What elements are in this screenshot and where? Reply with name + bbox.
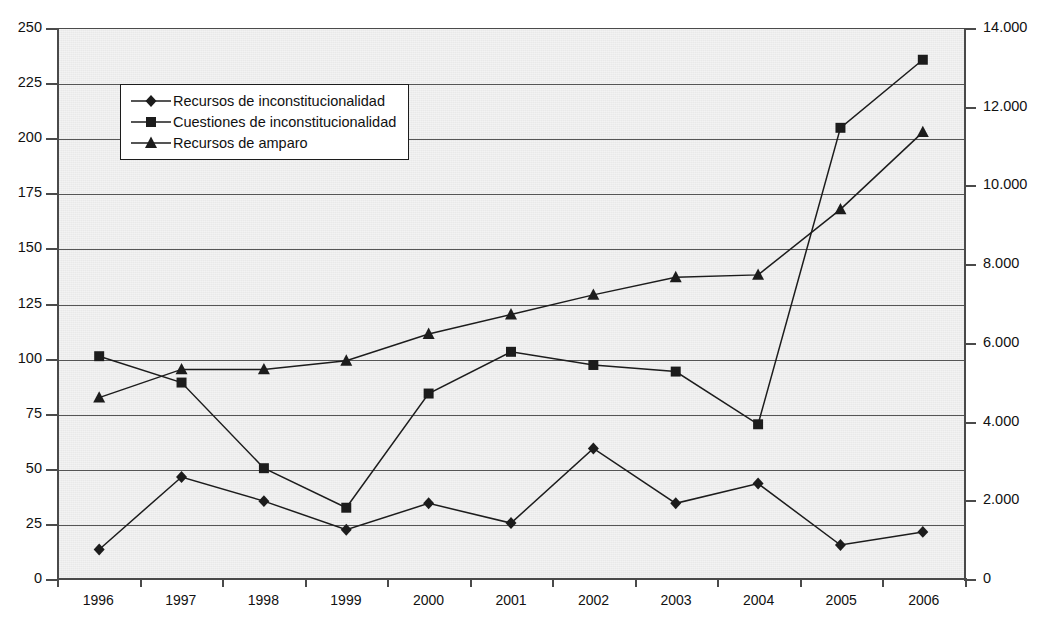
legend-label: Recursos de inconstitucionalidad <box>173 92 385 110</box>
series-line <box>99 448 923 549</box>
x-axis-tick-label: 1998 <box>248 592 279 608</box>
legend-marker-triangle <box>129 134 173 152</box>
legend-item[interactable]: Cuestiones de inconstitucionalidad <box>129 111 396 132</box>
y-axis-left-tick <box>46 304 58 306</box>
diamond-marker <box>917 526 928 538</box>
x-axis-tick <box>882 578 884 587</box>
x-axis-tick-label: 1996 <box>83 592 114 608</box>
triangle-marker <box>752 268 764 279</box>
y-axis-right-tick <box>964 343 976 345</box>
triangle-marker <box>917 126 929 137</box>
series-3 <box>93 126 929 403</box>
chart-title <box>0 0 1061 8</box>
series-line <box>99 132 923 397</box>
y-axis-right-tick-label: 0 <box>983 570 991 586</box>
x-axis-tick <box>222 578 224 587</box>
y-axis-left-tick-label: 175 <box>18 184 42 200</box>
x-axis-tick <box>305 578 307 587</box>
legend-item[interactable]: Recursos de inconstitucionalidad <box>129 90 396 111</box>
square-marker <box>588 360 598 370</box>
y-axis-left-tick-label: 100 <box>18 350 42 366</box>
y-axis-left-tick-label: 0 <box>34 570 42 586</box>
chart-page: Recursos de inconstitucionalidadCuestion… <box>0 0 1061 635</box>
x-axis-tick-label: 2000 <box>413 592 444 608</box>
x-axis-tick <box>470 578 472 587</box>
x-axis-tick <box>57 578 59 587</box>
x-axis-tick <box>552 578 554 587</box>
y-axis-right-tick-label: 2.000 <box>983 491 1019 507</box>
y-axis-left-tick-label: 50 <box>26 460 42 476</box>
square-marker <box>671 367 681 377</box>
square-marker <box>835 123 845 133</box>
x-axis-tick <box>965 578 967 587</box>
y-axis-right-tick-label: 6.000 <box>983 334 1019 350</box>
x-axis-tick-label: 2003 <box>661 592 692 608</box>
y-axis-left-tick <box>46 83 58 85</box>
series-1 <box>94 442 929 555</box>
y-axis-right-tick <box>964 185 976 187</box>
square-marker <box>918 55 928 65</box>
square-marker <box>94 351 104 361</box>
y-axis-left-tick <box>46 359 58 361</box>
square-marker <box>424 389 434 399</box>
x-axis-line <box>57 578 966 580</box>
legend-label: Recursos de amparo <box>173 134 308 152</box>
diamond-marker <box>423 497 434 509</box>
x-axis-tick <box>800 578 802 587</box>
legend-marker-diamond <box>129 92 173 110</box>
x-axis-tick-label: 2002 <box>578 592 609 608</box>
y-axis-left-tick <box>46 524 58 526</box>
diamond-marker <box>341 524 352 536</box>
y-axis-left-tick-label: 25 <box>26 515 42 531</box>
y-axis-right-tick-label: 12.000 <box>983 98 1027 114</box>
square-marker <box>506 347 516 357</box>
y-axis-left-tick-label: 125 <box>18 295 42 311</box>
square-marker <box>341 503 351 513</box>
y-axis-right-tick <box>964 422 976 424</box>
y-axis-left-tick <box>46 28 58 30</box>
y-axis-right-tick <box>964 28 976 30</box>
legend-label: Cuestiones de inconstitucionalidad <box>173 113 396 131</box>
y-axis-right-tick-label: 14.000 <box>983 19 1027 35</box>
y-axis-left-tick <box>46 138 58 140</box>
y-axis-left-tick-label: 75 <box>26 405 42 421</box>
x-axis-tick-label: 1999 <box>330 592 361 608</box>
y-axis-left-tick-label: 250 <box>18 19 42 35</box>
legend: Recursos de inconstitucionalidadCuestion… <box>120 84 409 160</box>
x-axis-tick-label: 2004 <box>743 592 774 608</box>
x-axis-tick-label: 2005 <box>826 592 857 608</box>
y-axis-left-tick-label: 150 <box>18 239 42 255</box>
diamond-marker <box>670 497 681 509</box>
y-axis-left-tick <box>46 414 58 416</box>
x-axis-tick-label: 1997 <box>165 592 196 608</box>
square-marker <box>146 117 156 127</box>
y-axis-right-tick-label: 8.000 <box>983 255 1019 271</box>
square-marker <box>177 378 187 388</box>
y-axis-left-tick-label: 225 <box>18 74 42 90</box>
y-axis-left-tick <box>46 248 58 250</box>
legend-marker-square <box>129 113 173 131</box>
x-axis-tick-label: 2006 <box>908 592 939 608</box>
diamond-marker <box>753 478 764 490</box>
y-axis-right-tick <box>964 107 976 109</box>
y-axis-right-tick-label: 4.000 <box>983 413 1019 429</box>
y-axis-right-tick-label: 10.000 <box>983 176 1027 192</box>
x-axis-tick <box>387 578 389 587</box>
x-axis-tick <box>140 578 142 587</box>
y-axis-left-tick-label: 200 <box>18 129 42 145</box>
y-axis-right-line <box>964 28 966 580</box>
diamond-marker <box>146 95 157 107</box>
y-axis-left-tick <box>46 469 58 471</box>
x-axis-tick-label: 2001 <box>495 592 526 608</box>
y-axis-right-tick <box>964 264 976 266</box>
square-marker <box>259 463 269 473</box>
x-axis-tick <box>717 578 719 587</box>
legend-item[interactable]: Recursos de amparo <box>129 132 396 153</box>
square-marker <box>753 419 763 429</box>
x-axis-tick <box>635 578 637 587</box>
y-axis-left-tick <box>46 193 58 195</box>
diamond-marker <box>835 539 846 551</box>
diamond-marker <box>258 495 269 507</box>
y-axis-right-tick <box>964 500 976 502</box>
